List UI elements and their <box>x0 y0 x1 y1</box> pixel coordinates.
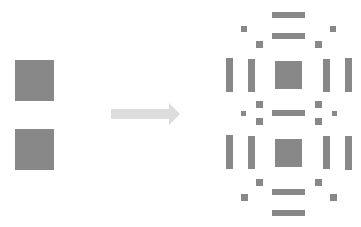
output-horizontal-bar <box>272 12 305 18</box>
output-horizontal-bar <box>272 33 305 39</box>
output-horizontal-bar <box>272 110 305 116</box>
output-small-square <box>256 118 263 125</box>
output-small-square <box>330 26 336 32</box>
output-vertical-bar <box>323 136 330 169</box>
output-vertical-bar <box>323 59 330 92</box>
output-vertical-bar <box>248 136 255 169</box>
output-vertical-bar <box>345 58 352 92</box>
output-small-square <box>332 111 337 116</box>
output-small-square <box>241 194 248 201</box>
output-small-square <box>315 41 322 48</box>
output-small-square <box>315 179 322 186</box>
output-small-square <box>241 111 246 116</box>
output-vertical-bar <box>226 135 233 169</box>
output-vertical-bar <box>248 59 255 92</box>
output-small-square <box>315 118 322 125</box>
transform-arrow-icon <box>111 103 180 125</box>
input-square <box>15 60 54 101</box>
output-small-square <box>256 41 263 48</box>
output-horizontal-bar <box>272 189 305 195</box>
output-center-square <box>275 139 302 167</box>
output-small-square <box>241 26 247 32</box>
output-small-square <box>256 179 263 186</box>
output-center-square <box>275 61 302 89</box>
output-small-square <box>256 101 263 108</box>
output-vertical-bar <box>226 58 233 92</box>
output-small-square <box>315 101 322 108</box>
output-small-square <box>330 194 337 201</box>
output-vertical-bar <box>345 136 352 170</box>
output-horizontal-bar <box>272 210 305 216</box>
input-square <box>15 129 54 170</box>
